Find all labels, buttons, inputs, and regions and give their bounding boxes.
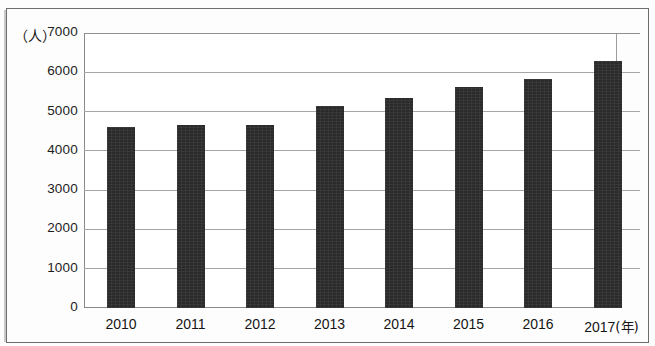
gridline — [84, 268, 640, 269]
y-axis-tick-label: 5000 — [14, 103, 78, 118]
bar-2013 — [316, 106, 344, 308]
bar-2011 — [177, 125, 205, 308]
bar-2012 — [246, 125, 274, 308]
y-axis-tick-label: 7000 — [14, 24, 78, 39]
bar-2015 — [455, 87, 483, 308]
gridline — [84, 111, 640, 112]
x-axis-unit-label: (年) — [615, 319, 639, 335]
y-axis-tick-label: 1000 — [14, 260, 78, 275]
bar-2016 — [524, 79, 552, 308]
chart-screenshot: （人） 01000200030004000500060007000 201020… — [0, 0, 655, 346]
bar-2014 — [385, 98, 413, 308]
bar-2017 — [594, 61, 622, 309]
x-axis-tick-label: 2015 — [439, 316, 499, 332]
y-axis-tick-label: 4000 — [14, 142, 78, 157]
x-axis-tick-labels: 20102011201220132014201520162017(年) — [84, 316, 644, 340]
x-axis-tick-label: 2013 — [300, 316, 360, 332]
y-axis-tick-labels: 01000200030004000500060007000 — [12, 33, 78, 308]
y-axis-tick-label: 2000 — [14, 220, 78, 235]
x-axis-tick-label: 2011 — [161, 316, 221, 332]
gridline — [84, 33, 640, 34]
bar-2010 — [107, 127, 135, 308]
figure-border-shadow — [4, 10, 6, 342]
y-axis-tick-label: 6000 — [14, 63, 78, 78]
x-axis-tick-label: 2016 — [508, 316, 568, 332]
x-axis-tick-label: 2014 — [369, 316, 429, 332]
x-axis-tick-label: 2010 — [91, 316, 151, 332]
plot-area — [84, 33, 617, 308]
gridline — [84, 150, 640, 151]
gridline — [84, 72, 640, 73]
x-axis-tick-text: 2017 — [584, 319, 615, 335]
gridline — [84, 190, 640, 191]
gridline — [84, 229, 640, 230]
y-axis-tick-label: 3000 — [14, 181, 78, 196]
x-axis-tick-label: 2012 — [230, 316, 290, 332]
y-axis-tick-label: 0 — [14, 299, 78, 314]
x-axis-tick-label: 2017(年) — [570, 316, 654, 336]
